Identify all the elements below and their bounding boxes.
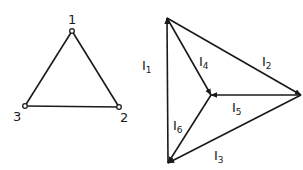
edge-2-3 (25, 106, 119, 107)
edge-3-1 (25, 31, 72, 106)
current-label-i5: I5 (232, 100, 242, 117)
current-label-i4: I4 (199, 54, 209, 71)
node-2 (117, 105, 122, 110)
current-graph: I1I2I3I4I5I6 (142, 18, 301, 165)
node-label-3: 3 (13, 109, 21, 124)
current-label-i3: I3 (214, 148, 224, 165)
triangle-graph: 123 (13, 12, 128, 125)
node-1 (70, 29, 75, 34)
current-arrow-i2 (167, 18, 301, 95)
current-label-i6: I6 (173, 118, 183, 135)
node-3 (23, 104, 28, 109)
edge-1-2 (72, 31, 119, 107)
node-label-2: 2 (120, 110, 128, 125)
current-label-i1: I1 (142, 58, 152, 75)
circuit-diagram: 123 I1I2I3I4I5I6 (0, 0, 303, 170)
node-label-1: 1 (68, 12, 76, 27)
current-label-i2: I2 (262, 54, 272, 71)
current-arrow-i4 (167, 18, 211, 95)
current-arrow-i1 (167, 18, 168, 163)
